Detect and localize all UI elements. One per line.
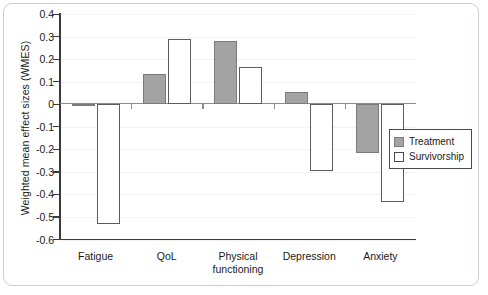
- y-axis-tick-label: 0.2: [8, 54, 54, 64]
- y-axis-tick-label: -0.2: [8, 144, 54, 154]
- gridline: [60, 14, 416, 15]
- legend-swatch-survivorship-icon: [394, 152, 404, 162]
- bar-chart-figure: Weighted mean effect sizes (WMES) 0.40.3…: [0, 0, 488, 295]
- legend-item-treatment: Treatment: [394, 134, 467, 149]
- bar-survivorship-fatigue: [97, 104, 120, 225]
- y-axis-line: [59, 13, 61, 240]
- x-axis-tick: [131, 103, 132, 109]
- y-axis-tick-label: 0.3: [8, 32, 54, 42]
- bar-treatment-fatigue: [72, 104, 95, 106]
- y-axis-tick-label: -0.3: [8, 167, 54, 177]
- bar-treatment-physical-functioning: [214, 41, 237, 104]
- chart-legend: Treatment Survivorship: [389, 129, 472, 169]
- x-axis-label-qol: QoL: [131, 250, 202, 263]
- x-axis-label-anxiety: Anxiety: [345, 250, 416, 263]
- bar-treatment-anxiety: [356, 104, 379, 154]
- x-axis-label-physical-functioning: Physical functioning: [202, 250, 273, 275]
- bar-treatment-depression: [285, 92, 308, 104]
- x-axis-tick: [345, 103, 346, 109]
- x-axis-label-depression: Depression: [274, 250, 345, 263]
- bar-survivorship-depression: [310, 104, 333, 172]
- x-axis-label-fatigue: Fatigue: [60, 250, 131, 263]
- bar-survivorship-qol: [168, 39, 191, 104]
- y-axis-tick-label: 0.1: [8, 77, 54, 87]
- legend-label-survivorship: Survivorship: [409, 151, 464, 162]
- legend-item-survivorship: Survivorship: [394, 149, 467, 164]
- x-axis-tick: [274, 103, 275, 109]
- x-axis-tick: [202, 103, 203, 109]
- gridline: [60, 59, 416, 60]
- legend-swatch-treatment-icon: [394, 137, 404, 147]
- gridline: [60, 37, 416, 38]
- y-axis-tick-label: -0.4: [8, 189, 54, 199]
- gridline: [60, 82, 416, 83]
- x-axis-line: [59, 239, 416, 241]
- bar-survivorship-physical-functioning: [239, 67, 262, 104]
- y-axis-tick-label: -0.1: [8, 122, 54, 132]
- y-axis-tick-label: 0: [8, 99, 54, 109]
- legend-label-treatment: Treatment: [409, 136, 454, 147]
- y-axis-tick-label: -0.6: [8, 235, 54, 245]
- y-axis-tick-label: -0.5: [8, 212, 54, 222]
- y-axis-tick-label: 0.4: [8, 9, 54, 19]
- bar-treatment-qol: [143, 74, 166, 104]
